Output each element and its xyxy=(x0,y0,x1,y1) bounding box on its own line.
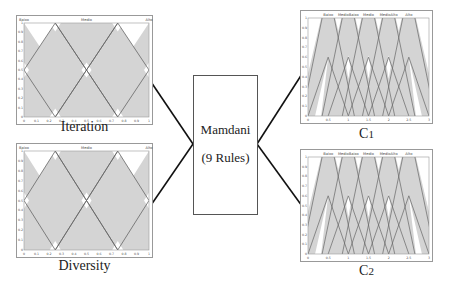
svg-text:0.1: 0.1 xyxy=(18,106,23,110)
c2-label-sub: 2 xyxy=(368,265,374,277)
svg-text:0.4: 0.4 xyxy=(302,213,307,217)
svg-text:0.5: 0.5 xyxy=(84,252,89,256)
svg-text:0.3: 0.3 xyxy=(302,223,307,227)
svg-text:0.7: 0.7 xyxy=(18,179,23,183)
membership-plot: 00.10.20.30.40.50.60.70.80.9100.10.20.30… xyxy=(16,15,153,125)
svg-text:Baixo: Baixo xyxy=(323,13,333,17)
svg-text:0.2: 0.2 xyxy=(302,94,307,98)
svg-text:1: 1 xyxy=(148,252,150,256)
svg-text:0.5: 0.5 xyxy=(326,118,331,122)
svg-text:0.8: 0.8 xyxy=(18,40,23,44)
svg-text:0.8: 0.8 xyxy=(121,252,126,256)
svg-text:0.3: 0.3 xyxy=(302,85,307,89)
iteration-chart: 00.10.20.30.40.50.60.70.80.9100.10.20.30… xyxy=(16,15,153,125)
c2-label: C2 xyxy=(300,263,433,279)
svg-text:Baixo: Baixo xyxy=(323,152,333,156)
svg-text:1.5: 1.5 xyxy=(366,256,371,260)
c1-label: C1 xyxy=(300,126,433,142)
svg-text:1: 1 xyxy=(305,16,307,20)
c2-chart: 00.10.20.30.40.50.60.70.80.9100.511.522.… xyxy=(300,149,433,262)
svg-text:0.5: 0.5 xyxy=(18,68,23,72)
svg-text:0.9: 0.9 xyxy=(302,26,307,30)
membership-plot: 00.10.20.30.40.50.60.70.80.9100.511.522.… xyxy=(300,149,433,262)
svg-text:0.7: 0.7 xyxy=(18,49,23,53)
svg-text:MedioBaixo: MedioBaixo xyxy=(338,152,359,156)
svg-text:1: 1 xyxy=(305,155,307,159)
svg-text:0.4: 0.4 xyxy=(71,252,76,256)
svg-text:0.6: 0.6 xyxy=(18,59,23,63)
svg-text:Medio: Medio xyxy=(81,146,92,150)
svg-text:0.6: 0.6 xyxy=(96,252,101,256)
svg-text:0: 0 xyxy=(307,118,309,122)
svg-text:MedioAlto: MedioAlto xyxy=(380,13,398,17)
svg-text:0: 0 xyxy=(307,256,309,260)
svg-text:0.8: 0.8 xyxy=(302,174,307,178)
svg-text:Medio: Medio xyxy=(363,13,374,17)
svg-text:0.1: 0.1 xyxy=(302,242,307,246)
mamdani-title: Mamdani xyxy=(194,122,257,138)
svg-text:1: 1 xyxy=(347,118,349,122)
membership-plot: 00.10.20.30.40.50.60.70.80.9100.511.522.… xyxy=(300,10,433,124)
svg-text:0.2: 0.2 xyxy=(46,252,51,256)
svg-text:0.5: 0.5 xyxy=(302,204,307,208)
svg-text:0.2: 0.2 xyxy=(18,96,23,100)
connector-diversity xyxy=(149,144,193,208)
svg-text:0.3: 0.3 xyxy=(59,252,64,256)
svg-text:0.1: 0.1 xyxy=(18,238,23,242)
iteration-label: Iteration xyxy=(16,119,153,135)
svg-text:0.2: 0.2 xyxy=(302,233,307,237)
svg-text:3: 3 xyxy=(428,118,430,122)
svg-text:0.7: 0.7 xyxy=(302,45,307,49)
svg-text:Alto: Alto xyxy=(405,152,412,156)
svg-text:0.8: 0.8 xyxy=(18,169,23,173)
svg-text:2.5: 2.5 xyxy=(406,118,411,122)
svg-text:3: 3 xyxy=(428,256,430,260)
svg-text:Alto: Alto xyxy=(145,146,152,150)
diversity-label: Diversity xyxy=(16,258,153,274)
svg-text:0.5: 0.5 xyxy=(302,65,307,69)
mamdani-box: Mamdani (9 Rules) xyxy=(193,75,258,215)
membership-plot: 00.10.20.30.40.50.60.70.80.9100.10.20.30… xyxy=(16,143,153,258)
svg-text:Alto: Alto xyxy=(405,13,412,17)
diversity-chart: 00.10.20.30.40.50.60.70.80.9100.10.20.30… xyxy=(16,143,153,258)
svg-text:0.1: 0.1 xyxy=(34,252,39,256)
svg-text:0.7: 0.7 xyxy=(109,252,114,256)
svg-text:0.4: 0.4 xyxy=(18,77,23,81)
svg-text:Alto: Alto xyxy=(145,18,152,22)
svg-text:MedioBaixo: MedioBaixo xyxy=(338,13,359,17)
svg-text:Medio: Medio xyxy=(363,152,374,156)
svg-text:0: 0 xyxy=(23,252,25,256)
svg-text:Medio: Medio xyxy=(81,18,92,22)
svg-text:2.5: 2.5 xyxy=(406,256,411,260)
connector-c1 xyxy=(257,74,302,144)
mamdani-rules: (9 Rules) xyxy=(194,150,257,166)
svg-text:2: 2 xyxy=(388,256,390,260)
svg-text:0.2: 0.2 xyxy=(18,228,23,232)
svg-text:1.5: 1.5 xyxy=(366,118,371,122)
connector-c2 xyxy=(257,144,302,206)
svg-text:0.6: 0.6 xyxy=(18,189,23,193)
connector-iteration xyxy=(147,76,193,144)
svg-text:0.4: 0.4 xyxy=(18,208,23,212)
svg-text:0.4: 0.4 xyxy=(302,75,307,79)
svg-text:0.9: 0.9 xyxy=(18,159,23,163)
svg-text:0.9: 0.9 xyxy=(18,30,23,34)
svg-text:0.3: 0.3 xyxy=(18,87,23,91)
svg-text:0.6: 0.6 xyxy=(302,55,307,59)
svg-text:MedioAlto: MedioAlto xyxy=(380,152,398,156)
svg-text:0.3: 0.3 xyxy=(18,218,23,222)
svg-text:Baixo: Baixo xyxy=(19,18,29,22)
svg-text:1: 1 xyxy=(347,256,349,260)
svg-text:Baixo: Baixo xyxy=(19,146,29,150)
svg-text:0.9: 0.9 xyxy=(302,165,307,169)
c1-label-sub: 1 xyxy=(368,128,374,140)
svg-text:0.7: 0.7 xyxy=(302,184,307,188)
c1-chart: 00.10.20.30.40.50.60.70.80.9100.511.522.… xyxy=(300,10,433,124)
svg-text:2: 2 xyxy=(388,118,390,122)
svg-text:0.9: 0.9 xyxy=(134,252,139,256)
svg-text:0.5: 0.5 xyxy=(18,199,23,203)
svg-text:0.8: 0.8 xyxy=(302,36,307,40)
svg-text:0.5: 0.5 xyxy=(326,256,331,260)
svg-text:0.6: 0.6 xyxy=(302,194,307,198)
svg-text:0.1: 0.1 xyxy=(302,104,307,108)
